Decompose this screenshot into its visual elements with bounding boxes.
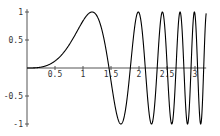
x-tick-label: 0.5 [48, 70, 63, 79]
y-ticks: 10.5-0.5-1 [4, 8, 29, 129]
x-tick-label: 3 [193, 70, 198, 79]
y-tick-label: -1 [13, 120, 23, 129]
y-tick-label: 0.5 [9, 36, 24, 45]
chart: 0.511.522.53 10.5-0.5-1 [0, 0, 220, 136]
y-tick-label: -0.5 [4, 92, 23, 101]
x-tick-label: 1.5 [104, 70, 119, 79]
x-tick-label: 1 [81, 70, 86, 79]
x-tick-label: 2 [137, 70, 142, 79]
y-tick-label: 1 [18, 8, 23, 17]
